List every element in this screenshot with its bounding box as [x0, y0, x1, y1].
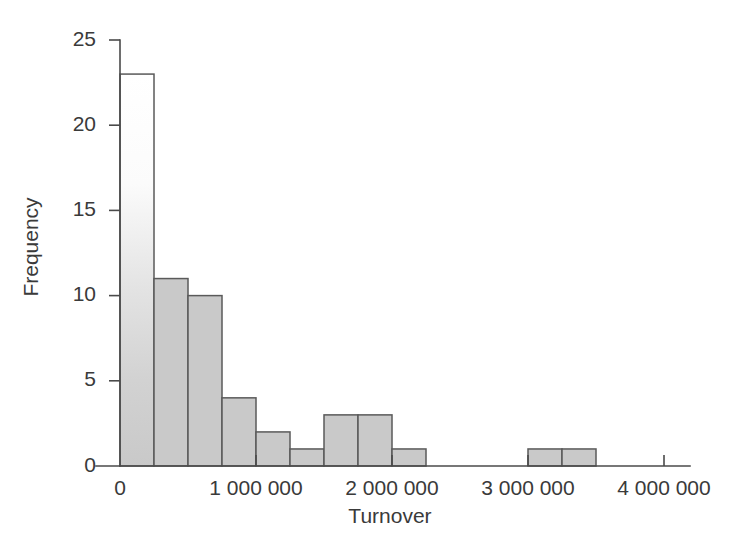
- x-axis-tick-label: 0: [114, 476, 126, 499]
- y-axis-tick-label: 10: [73, 282, 96, 305]
- histogram-bar: [256, 432, 290, 466]
- histogram-bar: [528, 449, 562, 466]
- y-axis: 0510152025: [73, 27, 120, 476]
- histogram-bar: [358, 415, 392, 466]
- y-axis-tick-label: 15: [73, 197, 96, 220]
- histogram-bar: [154, 279, 188, 466]
- chart-canvas: 0510152025 01 000 0002 000 0003 000 0004…: [0, 0, 731, 555]
- x-axis-title: Turnover: [348, 504, 431, 527]
- y-axis-tick-label: 20: [73, 112, 96, 135]
- y-axis-tick-label: 25: [73, 27, 96, 50]
- histogram-bar: [222, 398, 256, 466]
- histogram-bar: [324, 415, 358, 466]
- bars-group: [120, 74, 596, 466]
- x-axis-tick-label: 2 000 000: [345, 476, 438, 499]
- histogram-chart: 0510152025 01 000 0002 000 0003 000 0004…: [0, 0, 731, 555]
- x-axis-tick-label: 3 000 000: [481, 476, 574, 499]
- histogram-bar: [290, 449, 324, 466]
- histogram-bar: [392, 449, 426, 466]
- y-axis-tick-label: 0: [84, 453, 96, 476]
- histogram-bar: [120, 74, 154, 466]
- y-axis-tick-label: 5: [84, 367, 96, 390]
- histogram-bar: [188, 296, 222, 466]
- x-axis-tick-label: 4 000 000: [617, 476, 710, 499]
- x-axis-tick-label: 1 000 000: [209, 476, 302, 499]
- y-axis-title: Frequency: [19, 197, 42, 297]
- histogram-bar: [562, 449, 596, 466]
